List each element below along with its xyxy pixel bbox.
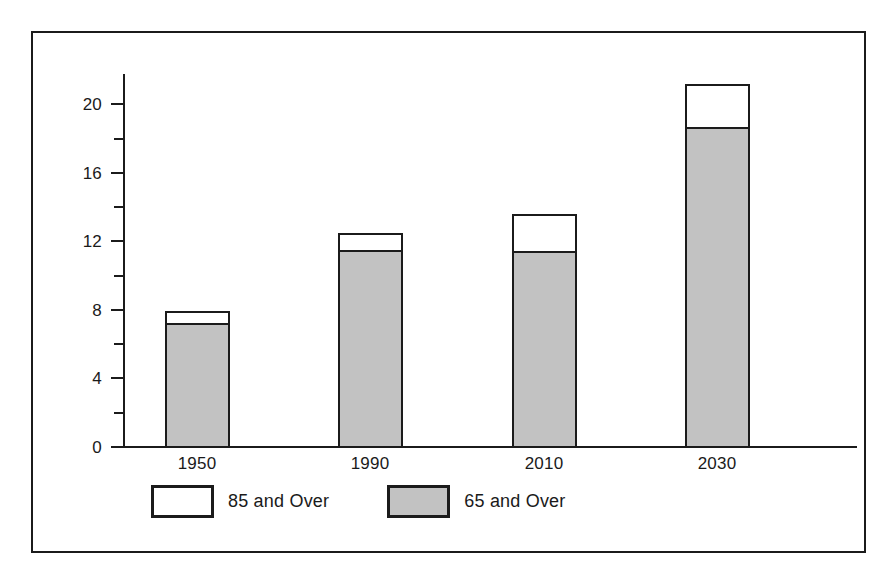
y-tick-8: 8: [111, 309, 123, 311]
bar-segment-65-and-over[interactable]: [512, 251, 577, 448]
bar-segment-65-and-over[interactable]: [165, 323, 230, 448]
y-tick-minor-6: [114, 343, 123, 345]
bar-segment-85-and-over[interactable]: [512, 214, 577, 254]
y-tick-minor-2: [114, 412, 123, 414]
chart-legend: 85 and Over 65 and Over: [151, 485, 566, 518]
y-tick-label-20: 20: [83, 96, 102, 113]
y-tick-label-0: 0: [92, 439, 102, 456]
figure-frame: 20 16 12 8 4 0: [31, 31, 866, 553]
x-tick-label-1950: 1950: [137, 454, 257, 474]
y-tick-20: 20: [111, 103, 123, 105]
y-tick-minor-14: [114, 206, 123, 208]
y-tick-16: 16: [111, 172, 123, 174]
x-tick-label-1990: 1990: [310, 454, 430, 474]
legend-swatch-gray-icon: [387, 485, 450, 518]
plot-area: 20 16 12 8 4 0: [33, 33, 868, 555]
y-tick-label-4: 4: [92, 370, 102, 387]
y-tick-label-12: 12: [83, 233, 102, 250]
y-tick-minor-18: [114, 138, 123, 140]
x-tick-label-2010: 2010: [484, 454, 604, 474]
y-tick-label-16: 16: [83, 165, 102, 182]
legend-label-85-and-over: 85 and Over: [228, 491, 329, 512]
y-tick-minor-10: [114, 275, 123, 277]
bar-segment-65-and-over[interactable]: [338, 250, 403, 448]
legend-label-65-and-over: 65 and Over: [464, 491, 565, 512]
bar-segment-65-and-over[interactable]: [685, 127, 750, 448]
y-tick-label-8: 8: [92, 302, 102, 319]
y-axis-line: [123, 74, 125, 448]
x-tick-label-2030: 2030: [657, 454, 777, 474]
legend-entry-65-and-over[interactable]: 65 and Over: [387, 485, 565, 518]
legend-entry-85-and-over[interactable]: 85 and Over: [151, 485, 329, 518]
y-tick-4: 4: [111, 377, 123, 379]
y-tick-12: 12: [111, 240, 123, 242]
legend-swatch-white-icon: [151, 485, 214, 518]
bar-segment-85-and-over[interactable]: [685, 84, 750, 129]
y-tick-0: 0: [111, 446, 123, 448]
